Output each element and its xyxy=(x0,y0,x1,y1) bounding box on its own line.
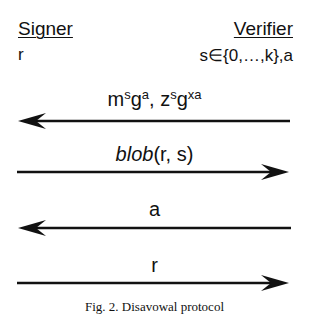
signer-heading: Signer xyxy=(18,18,73,40)
verifier-value: s∈{0,…,k},a xyxy=(200,45,293,66)
arrow-left-icon xyxy=(0,111,309,131)
verifier-heading: Verifier xyxy=(234,18,293,40)
signer-value: r xyxy=(18,45,24,65)
arrow-right-icon xyxy=(0,162,309,182)
figure-caption: Fig. 2. Disavowal protocol xyxy=(0,299,309,315)
arrow-left-icon xyxy=(0,218,309,238)
arrow-right-icon xyxy=(0,273,309,293)
message-1-label: msga, zsgxa xyxy=(0,88,309,111)
